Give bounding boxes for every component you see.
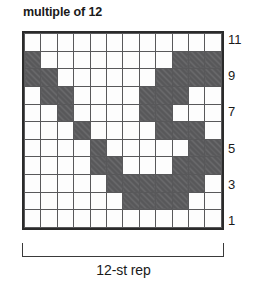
- stitch-cell-empty: [205, 104, 222, 122]
- stitch-cell-filled: [156, 122, 172, 140]
- stitch-cell-empty: [123, 139, 139, 157]
- stitch-cell-empty: [139, 69, 155, 87]
- stitch-cell-empty: [139, 122, 155, 140]
- stitch-cell-empty: [123, 157, 139, 175]
- stitch-cell-filled: [41, 86, 57, 104]
- stitch-cell-empty: [205, 192, 222, 210]
- stitch-cell-empty: [74, 139, 90, 157]
- stitch-cell-empty: [57, 51, 73, 69]
- stitch-cell-empty: [74, 104, 90, 122]
- stitch-cell-filled: [189, 51, 205, 69]
- stitch-cell-empty: [25, 139, 41, 157]
- stitch-cell-empty: [74, 210, 90, 228]
- stitch-cell-empty: [57, 157, 73, 175]
- stitch-cell-empty: [172, 34, 188, 52]
- stitch-cell-empty: [90, 34, 106, 52]
- stitch-cell-filled: [139, 104, 155, 122]
- stitch-cell-filled: [172, 122, 188, 140]
- stitch-cell-empty: [90, 69, 106, 87]
- stitch-cell-empty: [189, 86, 205, 104]
- stitch-cell-filled: [107, 157, 123, 175]
- stitch-cell-empty: [189, 104, 205, 122]
- stitch-cell-empty: [123, 69, 139, 87]
- stitch-cell-empty: [25, 192, 41, 210]
- stitch-cell-empty: [107, 51, 123, 69]
- stitch-cell-empty: [25, 122, 41, 140]
- repeat-caption: 12-st rep: [0, 262, 247, 278]
- stitch-cell-empty: [90, 86, 106, 104]
- stitch-cell-empty: [57, 175, 73, 193]
- stitch-cell-filled: [57, 86, 73, 104]
- stitch-cell-filled: [156, 192, 172, 210]
- stitch-row: [25, 139, 222, 157]
- stitch-cell-filled: [156, 104, 172, 122]
- stitch-cell-empty: [57, 34, 73, 52]
- stitch-cell-filled: [172, 86, 188, 104]
- stitch-cell-filled: [74, 122, 90, 140]
- stitch-cell-empty: [123, 86, 139, 104]
- stitch-cell-filled: [172, 51, 188, 69]
- stitch-cell-filled: [123, 192, 139, 210]
- stitch-cell-empty: [189, 34, 205, 52]
- repeat-bracket: [22, 243, 224, 257]
- stitch-cell-empty: [25, 104, 41, 122]
- stitch-cell-empty: [74, 69, 90, 87]
- stitch-cell-empty: [41, 122, 57, 140]
- stitch-cell-filled: [189, 69, 205, 87]
- stitch-row: [25, 192, 222, 210]
- stitch-row: [25, 51, 222, 69]
- stitch-cell-filled: [205, 139, 222, 157]
- stitch-cell-empty: [107, 69, 123, 87]
- stitch-cell-empty: [41, 192, 57, 210]
- stitch-cell-empty: [172, 104, 188, 122]
- stitch-cell-filled: [41, 69, 57, 87]
- stitch-grid-table: [24, 33, 222, 228]
- stitch-cell-filled: [139, 86, 155, 104]
- stitch-cell-filled: [139, 192, 155, 210]
- stitch-cell-empty: [156, 51, 172, 69]
- stitch-row: [25, 104, 222, 122]
- stitch-cell-empty: [156, 139, 172, 157]
- stitch-cell-empty: [57, 122, 73, 140]
- stitch-cell-empty: [107, 139, 123, 157]
- stitch-row: [25, 86, 222, 104]
- stitch-cell-empty: [189, 210, 205, 228]
- stitch-cell-empty: [41, 139, 57, 157]
- stitch-cell-empty: [123, 210, 139, 228]
- stitch-cell-empty: [90, 192, 106, 210]
- stitch-cell-empty: [172, 210, 188, 228]
- stitch-cell-empty: [25, 175, 41, 193]
- stitch-cell-empty: [74, 175, 90, 193]
- stitch-cell-filled: [25, 51, 41, 69]
- stitch-cell-filled: [205, 157, 222, 175]
- stitch-cell-empty: [107, 86, 123, 104]
- stitch-cell-empty: [41, 210, 57, 228]
- page-title: multiple of 12: [23, 5, 102, 19]
- stitch-cell-empty: [107, 104, 123, 122]
- stitch-cell-empty: [107, 122, 123, 140]
- stitch-cell-empty: [123, 122, 139, 140]
- stitch-cell-empty: [74, 86, 90, 104]
- stitch-row: [25, 157, 222, 175]
- stitch-cell-empty: [25, 210, 41, 228]
- stitch-cell-empty: [74, 192, 90, 210]
- stitch-cell-filled: [156, 175, 172, 193]
- stitch-cell-empty: [189, 192, 205, 210]
- stitch-cell-empty: [123, 104, 139, 122]
- stitch-cell-empty: [57, 210, 73, 228]
- stitch-cell-empty: [123, 34, 139, 52]
- stitch-cell-empty: [156, 157, 172, 175]
- stitch-cell-empty: [25, 34, 41, 52]
- stitch-cell-empty: [205, 210, 222, 228]
- row-number-label: 9: [228, 67, 252, 85]
- stitch-cell-filled: [90, 157, 106, 175]
- stitch-cell-empty: [156, 34, 172, 52]
- stitch-cell-empty: [74, 157, 90, 175]
- stitch-cell-empty: [139, 51, 155, 69]
- stitch-cell-filled: [123, 175, 139, 193]
- stitch-cell-filled: [189, 157, 205, 175]
- stitch-cell-empty: [107, 210, 123, 228]
- stitch-cell-filled: [189, 175, 205, 193]
- stitch-cell-empty: [172, 139, 188, 157]
- row-number-label: 1: [228, 212, 252, 230]
